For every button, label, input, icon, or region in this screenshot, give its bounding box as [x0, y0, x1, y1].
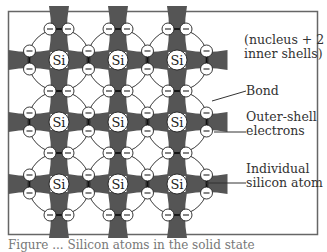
electron	[201, 187, 213, 199]
silicon-atom: Si	[49, 174, 69, 194]
electron	[201, 169, 213, 181]
electron	[44, 23, 56, 35]
electron	[103, 147, 115, 159]
electron	[44, 85, 56, 97]
electron	[121, 23, 133, 35]
electron	[201, 45, 213, 57]
electron	[83, 63, 95, 75]
electron	[162, 147, 174, 159]
electron	[180, 209, 192, 221]
svg-text:Si: Si	[170, 53, 183, 68]
electron	[180, 147, 192, 159]
electron	[180, 23, 192, 35]
electron	[201, 63, 213, 75]
svg-text:Si: Si	[52, 53, 65, 68]
electron	[121, 85, 133, 97]
electron	[62, 209, 74, 221]
electron	[24, 107, 36, 119]
silicon-atom: Si	[167, 50, 187, 70]
electron	[103, 85, 115, 97]
silicon-atom: Si	[167, 112, 187, 132]
silicon-atom: Si	[108, 112, 128, 132]
electron	[121, 147, 133, 159]
electron	[162, 209, 174, 221]
outer-shell-label: Outer-shell electrons	[246, 110, 317, 138]
figure-caption: Figure ... Silicon atoms in the solid st…	[8, 238, 255, 252]
electron	[142, 187, 154, 199]
electron	[83, 187, 95, 199]
electron	[201, 125, 213, 137]
electron	[44, 147, 56, 159]
electron	[142, 169, 154, 181]
electron	[180, 85, 192, 97]
svg-text:Si: Si	[170, 115, 183, 130]
electron	[62, 23, 74, 35]
svg-text:Si: Si	[170, 177, 183, 192]
svg-text:Si: Si	[111, 53, 124, 68]
svg-text:Si: Si	[52, 115, 65, 130]
electron	[162, 85, 174, 97]
silicon-atom: Si	[49, 112, 69, 132]
electron	[24, 45, 36, 57]
electron	[44, 209, 56, 221]
electron	[142, 125, 154, 137]
svg-text:Si: Si	[52, 177, 65, 192]
silicon-atom: Si	[108, 174, 128, 194]
silicon-atom: Si	[49, 50, 69, 70]
svg-text:Si: Si	[111, 115, 124, 130]
silicon-atom: Si	[108, 50, 128, 70]
electron	[83, 45, 95, 57]
svg-text:Si: Si	[111, 177, 124, 192]
electron	[24, 169, 36, 181]
electron	[162, 23, 174, 35]
electron	[142, 45, 154, 57]
electron	[142, 107, 154, 119]
electron	[142, 63, 154, 75]
electron	[24, 63, 36, 75]
bond-label: Bond	[246, 84, 279, 98]
electron	[121, 209, 133, 221]
electron	[62, 147, 74, 159]
electron	[24, 187, 36, 199]
electron	[201, 107, 213, 119]
electron	[83, 125, 95, 137]
silicon-atom: Si	[167, 174, 187, 194]
electron	[103, 209, 115, 221]
electron	[62, 85, 74, 97]
electron	[103, 23, 115, 35]
silicon-atom-label: Individual silicon atom	[246, 162, 323, 190]
electron	[83, 169, 95, 181]
electron	[83, 107, 95, 119]
nucleus-label: (nucleus + 2 inner shells)	[244, 33, 324, 61]
electron	[24, 125, 36, 137]
